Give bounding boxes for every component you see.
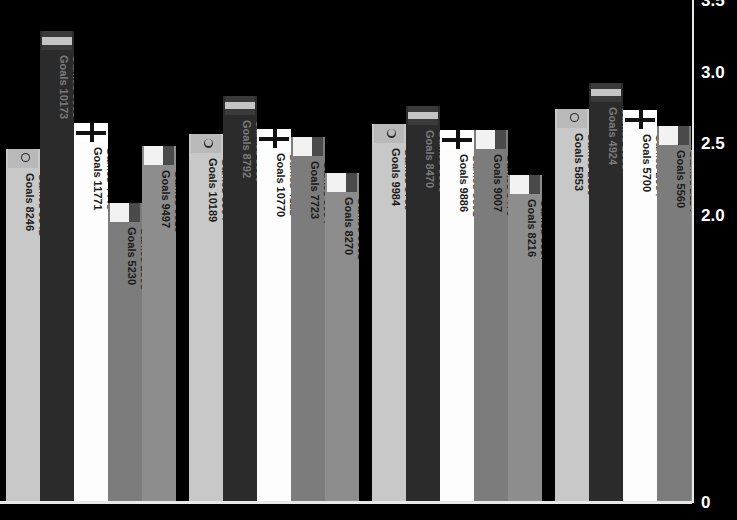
goals-label: Goals 4924: [606, 107, 619, 170]
flag-cross-icon: [259, 129, 289, 148]
flag-horizontal-bands-icon: [42, 31, 72, 50]
plot-area: Games 3342Goals 82462.47Games 3095Goals …: [0, 0, 692, 503]
goals-label: Goals 10173: [57, 55, 70, 119]
flag-cross-icon: [442, 130, 472, 149]
x-axis-baseline: [0, 501, 692, 504]
games-label: Games 3587: [538, 199, 542, 262]
goals-label: Goals 9984: [389, 148, 402, 211]
bar-group: Games 3342Goals 82462.47Games 3095Goals …: [6, 0, 176, 503]
bar[interactable]: Games 2130Goals 58532.75: [555, 109, 589, 503]
bar-annotation: Games 4122Goals 10770: [257, 153, 291, 453]
y-axis-tick-label: 0: [701, 493, 710, 513]
y-axis-tick-label: 2.0: [701, 206, 725, 226]
goals-label: Goals 8270: [342, 197, 355, 260]
bar[interactable]: Games 4448Goals 117712.65: [74, 123, 108, 503]
bar[interactable]: Games 3060Goals 84702.77: [406, 106, 440, 503]
goals-label: Goals 8216: [525, 199, 538, 262]
bar-annotation: Games 3587Goals 8216: [508, 199, 542, 499]
goals-label: Goals 8792: [240, 120, 253, 183]
bar[interactable]: Games 3601Goals 82702.30: [325, 173, 359, 503]
flag-horizontal-bands-icon: [591, 83, 621, 102]
goals-label: Goals 8246: [23, 173, 36, 236]
bar-annotation: Games 3095Goals 10173: [40, 55, 74, 355]
goals-label: Goals 11771: [91, 147, 104, 211]
flag-block-icon: [293, 137, 323, 156]
y-axis-line: [692, 0, 694, 503]
bar-annotation: Games 2084Goals 5700: [623, 134, 657, 434]
bar[interactable]: Games 3099Goals 87922.84: [223, 96, 257, 503]
bar-group: Games 3780Goals 99842.64Games 3060Goals …: [372, 0, 542, 503]
goals-label: Goals 7723: [308, 161, 321, 224]
flag-crescent-icon: [8, 149, 38, 168]
bar[interactable]: Games 2506Goals 52302.09: [108, 203, 142, 503]
goals-label: Goals 5560: [674, 150, 687, 212]
bar-annotation: Games 2114Goals 5560: [657, 150, 691, 450]
flag-block-icon: [476, 130, 506, 149]
bar-chart: Games 3342Goals 82462.47Games 3095Goals …: [0, 0, 737, 520]
bar-annotation: Games 4448Goals 11771: [74, 147, 108, 447]
goals-label: Goals 9497: [159, 170, 172, 233]
bar-annotation: Games 1683Goals 4924: [589, 107, 623, 407]
flag-horizontal-bands-icon: [408, 106, 438, 125]
games-label: Games 3601: [355, 197, 359, 260]
y-axis-tick-label: 3.0: [701, 63, 725, 83]
goals-label: Goals 5700: [640, 134, 653, 197]
bar-annotation: Games 3780Goals 9984: [372, 148, 406, 448]
flag-block-icon: [510, 175, 540, 194]
goals-label: Goals 5853: [572, 133, 585, 196]
flag-block-icon: [659, 126, 689, 145]
flag-cross-icon: [76, 123, 106, 142]
bar-annotation: Games 3060Goals 8470: [406, 130, 440, 430]
bar[interactable]: Games 3964Goals 101892.57: [189, 134, 223, 503]
bar[interactable]: Games 3801Goals 98862.60: [440, 130, 474, 503]
bar-annotation: Games 3819Goals 9497: [142, 170, 176, 470]
games-label: Games 3819: [172, 170, 176, 233]
bar-annotation: Games 2130Goals 5853: [555, 133, 589, 433]
bar[interactable]: Games 3095Goals 101733.29: [40, 31, 74, 503]
bar-group: Games 3964Goals 101892.57Games 3099Goals…: [189, 0, 359, 503]
flag-block-icon: [144, 146, 174, 165]
bar[interactable]: Games 3819Goals 94972.49: [142, 146, 176, 503]
goals-label: Goals 5230: [125, 227, 138, 290]
y-axis: 3.53.02.52.00: [692, 0, 737, 520]
bar[interactable]: Games 4122Goals 107702.61: [257, 129, 291, 503]
goals-label: Goals 9007: [491, 154, 504, 217]
flag-cross-icon: [625, 110, 655, 129]
bar-group: Games 2130Goals 58532.75Games 1683Goals …: [555, 0, 692, 503]
bar-annotation: Games 3034Goals 7723: [291, 161, 325, 461]
bar-annotation: Games 3801Goals 9886: [440, 154, 474, 454]
flag-crescent-icon: [374, 124, 404, 143]
bar[interactable]: Games 3342Goals 82462.47: [6, 149, 40, 503]
games-label: Games 4448: [104, 147, 108, 211]
bar-annotation: Games 3601Goals 8270: [325, 197, 359, 497]
goals-label: Goals 8470: [423, 130, 436, 193]
bar-annotation: Games 3099Goals 8792: [223, 120, 257, 420]
bar[interactable]: Games 2084Goals 57002.74: [623, 110, 657, 503]
flag-horizontal-bands-icon: [225, 96, 255, 115]
flag-block-icon: [110, 203, 140, 222]
bar-annotation: Games 3964Goals 10189: [189, 158, 223, 458]
games-label: Games 3095: [70, 55, 74, 119]
y-axis-tick-label: 3.5: [701, 0, 725, 11]
flag-block-icon: [327, 173, 357, 192]
y-axis-tick-label: 2.5: [701, 134, 725, 154]
bar[interactable]: Games 3587Goals 82162.29: [508, 175, 542, 503]
bar[interactable]: Games 1683Goals 49242.93: [589, 83, 623, 503]
goals-label: Goals 10770: [274, 153, 287, 217]
bar[interactable]: Games 2114Goals 55602.63: [657, 126, 691, 503]
bar-annotation: Games 2506Goals 5230: [108, 227, 142, 503]
flag-crescent-icon: [557, 109, 587, 128]
goals-label: Goals 10189: [206, 158, 219, 222]
bar-annotation: Games 3342Goals 8246: [6, 173, 40, 473]
bar[interactable]: Games 3780Goals 99842.64: [372, 124, 406, 503]
flag-crescent-icon: [191, 134, 221, 153]
bar-annotation: Games 3470Goals 9007: [474, 154, 508, 454]
bar[interactable]: Games 3470Goals 90072.60: [474, 130, 508, 503]
goals-label: Goals 9886: [457, 154, 470, 217]
bar[interactable]: Games 3034Goals 77232.55: [291, 137, 325, 503]
